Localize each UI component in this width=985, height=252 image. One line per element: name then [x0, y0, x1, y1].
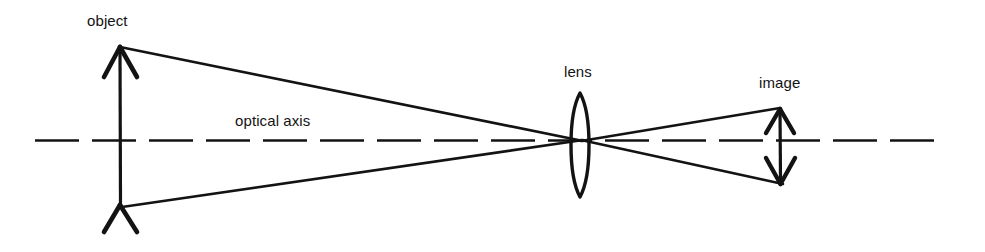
ray-lens-to-image-top [581, 108, 780, 141]
ray-lines-icon [120, 47, 783, 207]
biconvex-lens-icon [571, 93, 589, 197]
ray-object-top-to-lens [120, 47, 583, 141]
optical-axis-label: optical axis [235, 113, 310, 129]
object-label: object [87, 13, 128, 29]
ray-diagram-canvas [0, 0, 985, 252]
downward-arrow-icon [766, 109, 795, 184]
optics-ray-diagram: object lens image optical axis [0, 0, 985, 252]
ray-lens-to-image-bottom [581, 140, 783, 184]
image-label: image [759, 75, 800, 91]
lens-label: lens [564, 64, 592, 80]
ray-object-bottom-to-lens [122, 140, 583, 207]
